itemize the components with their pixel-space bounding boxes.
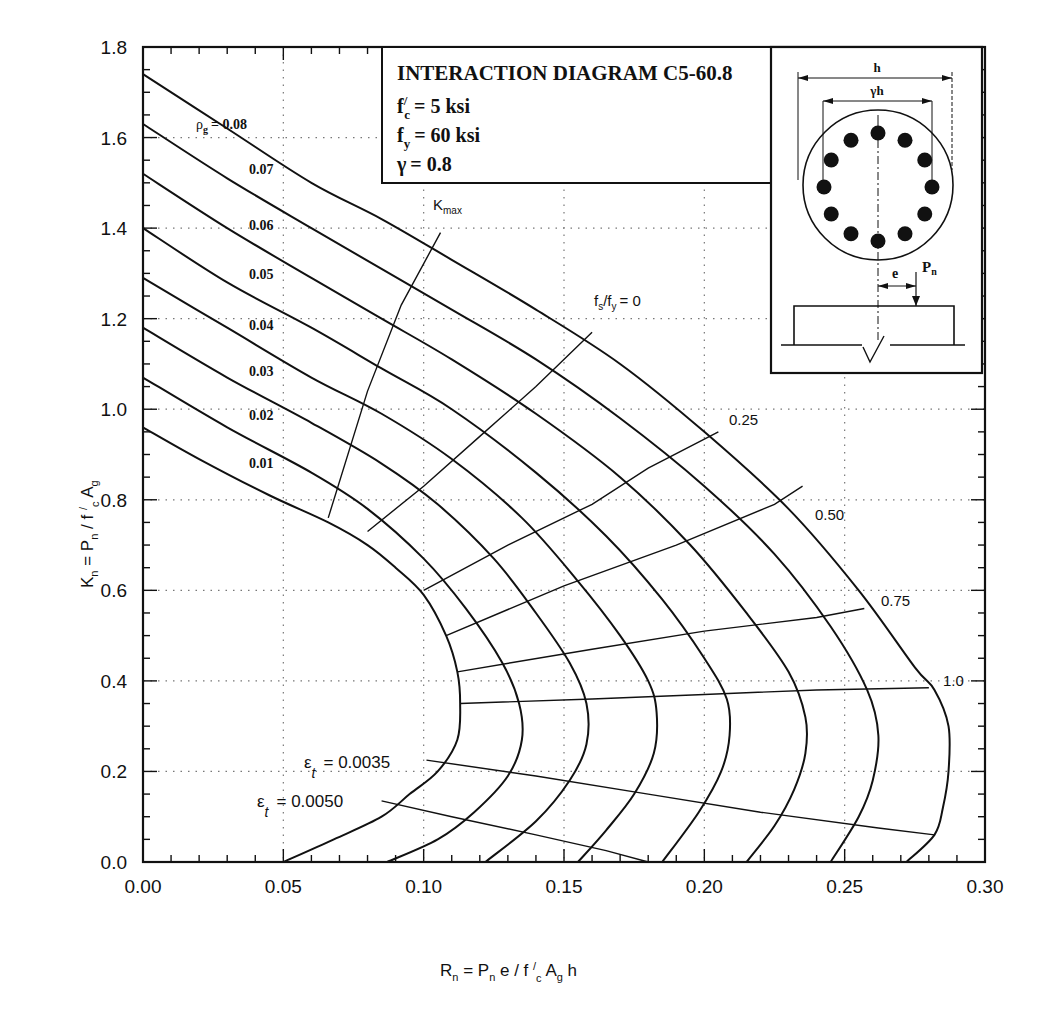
rebar-dot: [925, 180, 940, 195]
fs-fy-label: fs/fy= 0: [594, 292, 641, 312]
x-tick-label: 0.00: [125, 876, 162, 897]
y-tick-label: 0.4: [101, 671, 128, 692]
y-tick-label: 1.8: [101, 37, 127, 58]
rebar-dot: [898, 226, 913, 241]
strain-line: [460, 688, 929, 704]
rho-label: 0.05: [249, 267, 274, 282]
rebar-dot: [871, 234, 886, 249]
rho-label: ρg= 0.08: [196, 117, 247, 135]
rebar-dot: [917, 207, 932, 222]
y-tick-label: 0.8: [101, 490, 127, 511]
y-tick-label: 0.6: [101, 580, 127, 601]
chart-title: INTERACTION DIAGRAM C5-60.8: [397, 61, 732, 85]
rho-curve: [143, 228, 730, 862]
y-axis-title: Kn = Pn / f /c Ag: [77, 480, 101, 588]
param-gamma: γ= 0.8: [396, 153, 452, 176]
e-label: e: [892, 266, 898, 281]
strain-line: [382, 801, 649, 862]
rebar-dot: [824, 207, 839, 222]
eps-0050-label: εt= 0.0050: [257, 792, 343, 820]
rebar-dot: [844, 133, 859, 148]
rho-label: 0.01: [249, 456, 274, 471]
y-tick-label: 0.0: [101, 852, 127, 873]
x-tick-label: 0.15: [546, 876, 583, 897]
rho-label: 0.03: [249, 364, 274, 379]
y-tick-label: 0.2: [101, 761, 127, 782]
h-label: h: [873, 60, 881, 75]
rebar-dot: [898, 133, 913, 148]
rho-curve: [143, 378, 523, 862]
kmax-label: Kmax: [433, 196, 462, 216]
column-section-inset: h γh e Pn: [771, 47, 982, 373]
rebar-dot: [917, 153, 932, 168]
strain-line: [457, 608, 864, 671]
x-tick-label: 0.20: [686, 876, 723, 897]
rho-label: 0.04: [249, 318, 274, 333]
x-tick-label: 0.30: [967, 876, 1004, 897]
interaction-diagram-chart: 0.000.050.100.150.200.250.30 0.00.20.40.…: [0, 0, 1049, 1012]
rebar-dot: [824, 153, 839, 168]
fs-fy-050-label: 0.50: [815, 506, 844, 523]
rebar-dot: [871, 126, 886, 141]
fs-fy-10-label: 1.0: [943, 672, 964, 689]
rho-labels: ρg= 0.080.070.060.050.040.030.020.01: [196, 117, 274, 471]
title-box: INTERACTION DIAGRAM C5-60.8 f/c= 5 ksi f…: [382, 47, 771, 183]
rho-label: 0.07: [249, 162, 274, 177]
rho-label: 0.06: [249, 218, 274, 233]
strain-line: [368, 332, 593, 531]
strain-line: [424, 432, 719, 590]
rho-curve: [143, 328, 589, 862]
rho-label: 0.02: [249, 408, 274, 423]
strain-line: [446, 486, 802, 635]
rho-curve: [143, 278, 657, 862]
y-tick-label: 1.0: [101, 399, 127, 420]
x-tick-labels: 0.000.050.100.150.200.250.30: [125, 876, 1004, 897]
gamma-h-label: γh: [869, 83, 884, 98]
y-tick-label: 1.4: [101, 218, 128, 239]
eps-0035-label: εt= 0.0035: [304, 753, 390, 781]
rho-curve: [143, 174, 807, 862]
x-tick-label: 0.05: [265, 876, 302, 897]
rebar-dot: [844, 226, 859, 241]
y-tick-label: 1.2: [101, 309, 127, 330]
x-axis-title: Rn = Pn e / f /c Ag h: [440, 960, 577, 984]
rebar-dot: [817, 180, 832, 195]
y-tick-labels: 0.00.20.40.60.81.01.21.41.61.8: [101, 37, 128, 873]
rho-curve: [143, 124, 879, 862]
x-tick-label: 0.25: [826, 876, 863, 897]
fs-fy-075-label: 0.75: [881, 592, 910, 609]
strain-line: [426, 760, 934, 835]
x-tick-label: 0.10: [405, 876, 442, 897]
fs-fy-025-label: 0.25: [729, 411, 758, 428]
y-tick-label: 1.6: [101, 128, 127, 149]
